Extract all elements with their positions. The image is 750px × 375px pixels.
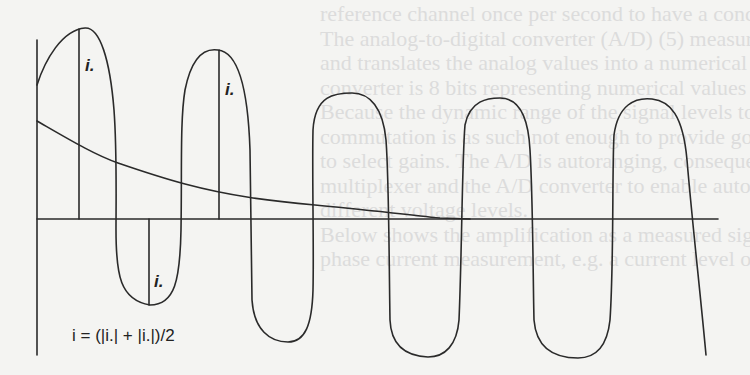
trough-label: i. [154, 272, 163, 292]
decaying-offset-curve [37, 121, 470, 219]
waveform-figure [0, 0, 750, 375]
peak-label-2: i. [225, 80, 234, 100]
peak-label-1: i. [85, 56, 94, 76]
oscillating-current-waveform [37, 28, 706, 358]
rms-equation: i = (|i.| + |i.|)/2 [72, 326, 175, 346]
